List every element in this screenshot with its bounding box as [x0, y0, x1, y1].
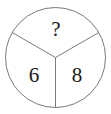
sector-label-lower-right: 8 — [64, 65, 90, 86]
sector-label-lower-left: 6 — [21, 65, 47, 86]
divided-circle-puzzle: ? 6 8 — [0, 0, 111, 114]
sector-label-top: ? — [43, 19, 69, 40]
